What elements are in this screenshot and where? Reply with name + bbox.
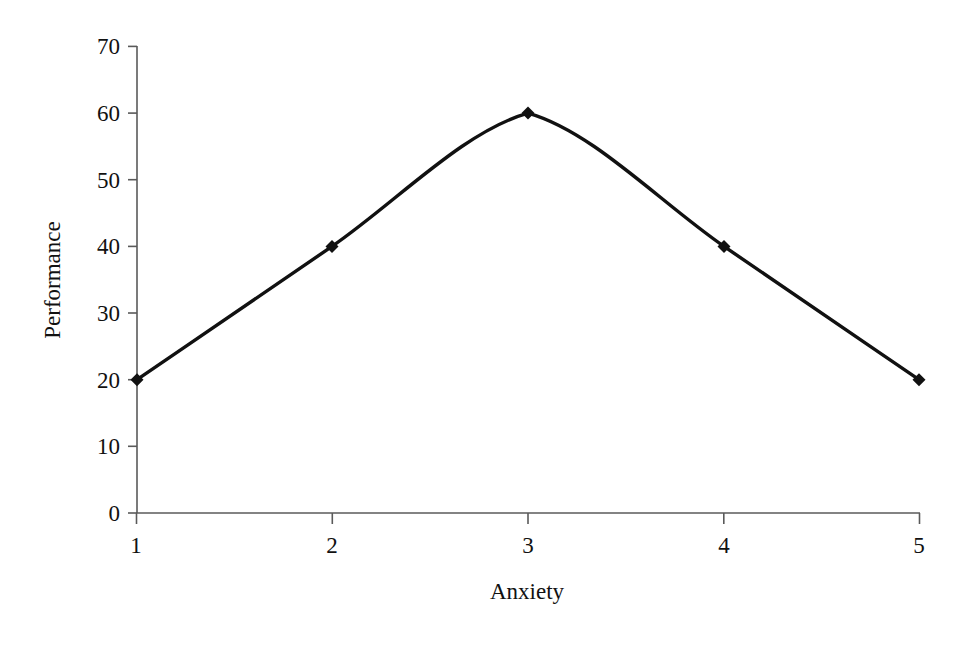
y-axis-ticks: [128, 46, 137, 513]
x-tick-label-5: 5: [913, 534, 925, 557]
x-axis-ticks: [137, 513, 920, 524]
data-point-markers: [131, 107, 926, 387]
chart-container: 70 60 50 40 30 20 10 0 1 2 3 4 5 Anxiety…: [0, 0, 973, 650]
chart-plot-area: [0, 0, 973, 650]
y-tick-label-60: 60: [66, 102, 120, 125]
data-series-line: [137, 113, 919, 380]
y-tick-label-0: 0: [66, 502, 120, 525]
y-tick-label-30: 30: [66, 302, 120, 325]
x-tick-label-3: 3: [522, 534, 534, 557]
y-tick-label-20: 20: [66, 369, 120, 392]
x-axis-title: Anxiety: [490, 580, 564, 603]
y-tick-label-50: 50: [66, 169, 120, 192]
x-tick-label-2: 2: [326, 534, 338, 557]
y-axis-title: Performance: [41, 221, 64, 339]
y-tick-label-10: 10: [66, 435, 120, 458]
data-point-marker: [522, 107, 535, 120]
x-tick-label-1: 1: [130, 534, 142, 557]
y-tick-label-40: 40: [66, 235, 120, 258]
x-tick-label-4: 4: [718, 534, 730, 557]
y-tick-label-70: 70: [66, 35, 120, 58]
